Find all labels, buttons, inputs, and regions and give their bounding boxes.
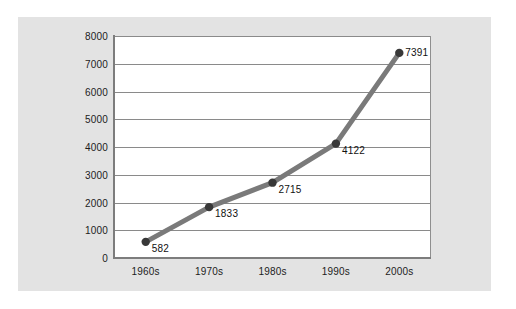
y-axis-tick-label: 1000 xyxy=(85,225,108,236)
y-axis-tick-label: 3000 xyxy=(85,169,108,180)
chart-figure: 010002000300040005000600070008000 1960s1… xyxy=(0,0,516,309)
y-axis-tick-label: 5000 xyxy=(85,114,108,125)
data-point-label: 7391 xyxy=(405,47,428,58)
y-axis-tick-label: 2000 xyxy=(85,197,108,208)
plot-area xyxy=(114,36,431,258)
gridline xyxy=(115,36,430,37)
gridline xyxy=(115,230,430,231)
x-axis-tick-label: 1970s xyxy=(195,266,223,277)
data-point-label: 582 xyxy=(152,243,169,254)
data-point-label: 4122 xyxy=(342,145,365,156)
data-point-label: 2715 xyxy=(279,184,302,195)
data-point-label: 1833 xyxy=(215,208,238,219)
gridline xyxy=(115,175,430,176)
x-axis-tick-label: 1990s xyxy=(322,266,350,277)
x-axis-tick-label: 1980s xyxy=(258,266,286,277)
y-axis-tick-label: 6000 xyxy=(85,86,108,97)
x-axis-tick-label: 2000s xyxy=(385,266,413,277)
y-axis-tick-labels: 010002000300040005000600070008000 xyxy=(60,0,108,309)
y-axis-tick-label: 8000 xyxy=(85,31,108,42)
gridline xyxy=(115,119,430,120)
x-axis-line xyxy=(114,257,431,259)
gridline xyxy=(115,92,430,93)
x-axis-tick-label: 1960s xyxy=(132,266,160,277)
y-axis-tick-label: 4000 xyxy=(85,142,108,153)
gridline xyxy=(115,203,430,204)
y-axis-tick-label: 7000 xyxy=(85,58,108,69)
gridline xyxy=(115,147,430,148)
gridline xyxy=(115,64,430,65)
y-axis-line xyxy=(113,35,115,259)
y-axis-tick-label: 0 xyxy=(102,253,108,264)
